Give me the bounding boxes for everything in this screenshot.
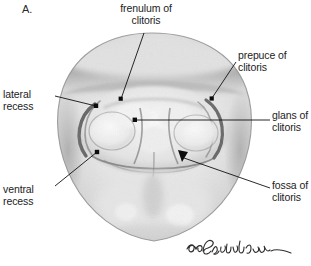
label-glans-of-clitoris: glans of clitoris (272, 110, 311, 133)
marker-ventral-recess (95, 150, 99, 154)
paper-grain (0, 0, 311, 266)
label-frenulum-of-clitoris: frenulum of clitoris (94, 3, 198, 26)
label-fossa-of-clitoris: fossa of clitoris (272, 180, 311, 203)
anatomical-figure: A. frenulum of clitoris prepuce of clito… (0, 0, 311, 266)
panel-letter: A. (22, 4, 32, 16)
specimen-drawing (0, 0, 311, 266)
label-prepuce-of-clitoris: prepuce of clitoris (238, 50, 308, 73)
marker-lateral-recess (94, 104, 98, 108)
marker-frenulum (119, 97, 123, 101)
artist-signature (187, 240, 291, 254)
illustration-canvas (0, 0, 311, 266)
label-ventral-recess: ventral recess (3, 184, 59, 207)
marker-prepuce (210, 96, 214, 100)
marker-glans (133, 118, 137, 122)
label-lateral-recess: lateral recess (3, 89, 59, 112)
